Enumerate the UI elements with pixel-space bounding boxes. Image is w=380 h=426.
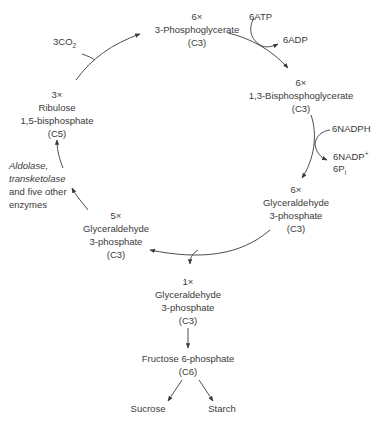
pga-name: 3-Phosphoglycerate [155, 24, 240, 35]
g3p5-name1: Glyceraldehyde [83, 223, 149, 234]
g3p5-name2: 3-phosphate [90, 236, 143, 247]
node-5x-glyceraldehyde-3-phosphate: 5× Glyceraldehyde 3-phosphate (C3) [83, 210, 149, 260]
f6p-name: Fructose 6-phosphate [142, 353, 234, 364]
arrow-bpg-to-g3p6 [302, 115, 314, 178]
arrow-rubp-to-pga [76, 34, 140, 80]
enzymes-line4: enzymes [9, 199, 47, 210]
rubp-name2: 1,5-bisphosphate [21, 115, 94, 126]
nadph-label: 6NADPH [332, 123, 371, 134]
node-1x-glyceraldehyde-3-phosphate: 1× Glyceraldehyde 3-phosphate (C3) [155, 276, 221, 326]
rubp-name1: Ribulose [39, 102, 76, 113]
bpg-carbons: (C3) [292, 103, 310, 114]
arrow-g3p6-to-g3p5 [150, 230, 270, 255]
arrow-f6p-to-sucrose [168, 380, 182, 401]
pi-label: 6Pi [333, 163, 346, 176]
nadp-label: 6NADP+ [333, 150, 369, 162]
g3p1-carbons: (C3) [179, 315, 197, 326]
g3p5-carbons: (C3) [107, 249, 125, 260]
adp-label: 6ADP [283, 34, 308, 45]
g3p6-name2: 3-phosphate [270, 210, 323, 221]
calvin-cycle-diagram: 6× 3-Phosphoglycerate (C3) 3CO2 6ATP 6AD… [0, 0, 380, 426]
enzymes-label: Aldolase, transketolase and five other e… [8, 160, 67, 210]
enzymes-line2: transketolase [9, 173, 66, 184]
arrow-g3p5-to-enzymes [72, 188, 88, 210]
node-6x-glyceraldehyde-3-phosphate: 6× Glyceraldehyde 3-phosphate (C3) [263, 184, 329, 234]
bpg-name: 1,3-Bisphosphoglycerate [249, 90, 354, 101]
nadph-nadp-arrow [315, 130, 330, 160]
f6p-carbons: (C6) [179, 366, 197, 377]
node-sucrose: Sucrose [131, 403, 166, 414]
node-3-phosphoglycerate: 6× 3-Phosphoglycerate (C3) [155, 11, 240, 48]
g3p6-name1: Glyceraldehyde [263, 197, 329, 208]
enzymes-line3: and five other [9, 186, 67, 197]
arrow-pga-to-bpg [228, 33, 288, 68]
arrow-enzymes-to-rubp [57, 140, 63, 168]
co2-label: 3CO2 [53, 36, 77, 49]
atp-label: 6ATP [249, 11, 272, 22]
pga-carbons: (C3) [188, 37, 206, 48]
arrow-branch-to-g3p1 [190, 250, 198, 264]
rubp-carbons: (C5) [48, 128, 66, 139]
node-fructose-6-phosphate: Fructose 6-phosphate (C6) [142, 353, 234, 377]
g3p6-carbons: (C3) [287, 223, 305, 234]
g3p1-name2: 3-phosphate [162, 302, 215, 313]
rubp-count: 3× [52, 89, 63, 100]
g3p6-count: 6× [291, 184, 302, 195]
enzymes-line1: Aldolase, [8, 160, 48, 171]
arrow-f6p-to-starch [199, 380, 213, 401]
g3p1-count: 1× [183, 276, 194, 287]
g3p5-count: 5× [111, 210, 122, 221]
pga-count: 6× [192, 11, 203, 22]
bpg-count: 6× [296, 77, 307, 88]
g3p1-name1: Glyceraldehyde [155, 289, 221, 300]
node-1-3-bisphosphoglycerate: 6× 1,3-Bisphosphoglycerate (C3) [249, 77, 354, 114]
node-starch: Starch [208, 403, 235, 414]
node-ribulose-1-5-bisphosphate: 3× Ribulose 1,5-bisphosphate (C5) [21, 89, 94, 139]
co2-input-arrow [82, 54, 95, 60]
